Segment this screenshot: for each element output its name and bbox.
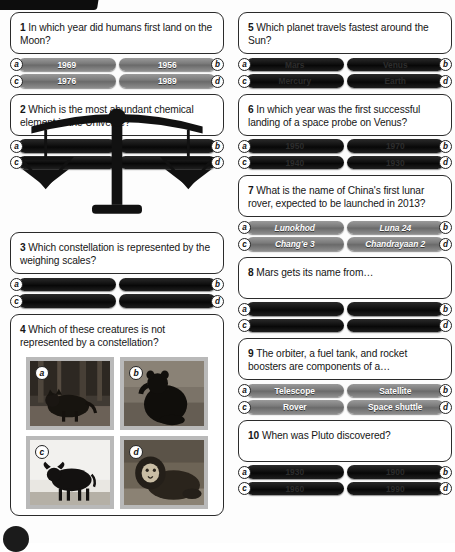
answers-7: a Lunokhod Luna 24 b c Chang'e 3 Chandra… <box>238 220 452 252</box>
answer-button-7a[interactable]: Lunokhod <box>246 221 344 235</box>
question-card-8: 8 Mars gets its name from… <box>238 257 452 299</box>
answer-button-6b[interactable]: 1970 <box>347 139 445 153</box>
scales-svg <box>10 105 224 230</box>
answer-button-8a[interactable] <box>246 302 344 316</box>
answer-button-1d[interactable]: 1989 <box>119 74 217 88</box>
answer-bullet-2c[interactable]: c <box>10 156 23 169</box>
answer-bullet-9c[interactable]: c <box>238 401 251 414</box>
answer-bullet-1c[interactable]: c <box>10 75 23 88</box>
answer-button-3a[interactable] <box>18 278 116 292</box>
question-number-4: 4 <box>20 324 26 335</box>
answer-bullet-8a[interactable]: a <box>238 303 251 316</box>
answer-button-3d[interactable] <box>119 294 217 308</box>
weighing-scales-illustration <box>10 174 224 230</box>
answer-button-10d[interactable]: 1990 <box>347 482 445 496</box>
question-number-5: 5 <box>248 22 254 33</box>
answer-row-10-cd: c 1960 1990 d <box>238 481 452 496</box>
answer-button-9c[interactable]: Rover <box>246 400 344 414</box>
answers-8: a b c d <box>238 302 452 334</box>
answer-button-6a[interactable]: 1950 <box>246 139 344 153</box>
question-text-5: 5 Which planet travels fastest around th… <box>248 21 442 48</box>
answer-bullet-5b[interactable]: b <box>439 58 452 71</box>
question-number-6: 6 <box>248 104 254 115</box>
answer-button-9b[interactable]: Satellite <box>347 384 445 398</box>
lion-photo[interactable]: d <box>120 436 208 509</box>
question-card-1: 1 In which year did humans first land on… <box>10 12 224 54</box>
answer-bullet-8c[interactable]: c <box>238 319 251 332</box>
answer-button-5b[interactable]: Venus <box>347 58 445 72</box>
answer-bullet-10b[interactable]: b <box>439 466 452 479</box>
question-number-9: 9 <box>248 348 254 359</box>
answer-button-1b[interactable]: 1956 <box>119 58 217 72</box>
answer-bullet-9d[interactable]: d <box>439 401 452 414</box>
answer-bullet-5a[interactable]: a <box>238 58 251 71</box>
answer-button-3c[interactable] <box>18 294 116 308</box>
answer-bullet-6a[interactable]: a <box>238 140 251 153</box>
wolf-photo[interactable]: a <box>26 357 114 430</box>
answer-button-3b[interactable] <box>119 278 217 292</box>
answer-bullet-2d[interactable]: d <box>211 156 224 169</box>
answer-bullet-6b[interactable]: b <box>439 140 452 153</box>
answer-bullet-6d[interactable]: d <box>439 156 452 169</box>
answer-bullet-3b[interactable]: b <box>211 278 224 291</box>
answer-button-5d[interactable]: Earth <box>347 74 445 88</box>
answer-button-5a[interactable]: Mars <box>246 58 344 72</box>
question-card-6: 6 In which year was the first successful… <box>238 94 452 136</box>
answer-button-7c[interactable]: Chang'e 3 <box>246 237 344 251</box>
answer-bullet-1a[interactable]: a <box>10 58 23 71</box>
answer-button-9d[interactable]: Space shuttle <box>347 400 445 414</box>
answer-row-6-cd: c 1940 1930 d <box>238 155 452 170</box>
answer-bullet-10a[interactable]: a <box>238 466 251 479</box>
answer-button-7b[interactable]: Luna 24 <box>347 221 445 235</box>
answers-10: a 1930 1900 b c 1960 1990 d <box>238 465 452 497</box>
answer-button-8c[interactable] <box>246 319 344 333</box>
bull-photo[interactable]: c <box>26 436 114 509</box>
answer-button-8d[interactable] <box>347 319 445 333</box>
answer-bullet-1b[interactable]: b <box>211 58 224 71</box>
answer-bullet-7a[interactable]: a <box>238 221 251 234</box>
black-corner-bar <box>0 0 99 10</box>
bear-photo[interactable]: b <box>120 357 208 430</box>
question-body-4: Which of these creatures is not represen… <box>20 324 165 348</box>
answer-button-10a[interactable]: 1930 <box>246 465 344 479</box>
answer-button-7d[interactable]: Chandrayaan 2 <box>347 237 445 251</box>
answer-bullet-5d[interactable]: d <box>439 75 452 88</box>
question-number-7: 7 <box>248 185 254 196</box>
answer-bullet-2a[interactable]: a <box>10 140 23 153</box>
answer-button-10b[interactable]: 1900 <box>347 465 445 479</box>
answer-bullet-9a[interactable]: a <box>238 384 251 397</box>
answer-bullet-1d[interactable]: d <box>211 75 224 88</box>
answer-bullet-3d[interactable]: d <box>211 295 224 308</box>
right-column: 5 Which planet travels fastest around th… <box>238 12 452 498</box>
answer-bullet-7d[interactable]: d <box>439 238 452 251</box>
answer-row-9-ab: a Telescope Satellite b <box>238 383 452 398</box>
answer-bullet-10c[interactable]: c <box>238 482 251 495</box>
answer-bullet-8b[interactable]: b <box>439 303 452 316</box>
answer-button-8b[interactable] <box>347 302 445 316</box>
answer-row-10-ab: a 1930 1900 b <box>238 465 452 480</box>
question-number-8: 8 <box>248 267 254 278</box>
answer-bullet-2b[interactable]: b <box>211 140 224 153</box>
answer-bullet-6c[interactable]: c <box>238 156 251 169</box>
question-text-8: 8 Mars gets its name from… <box>248 266 442 279</box>
answer-bullet-9b[interactable]: b <box>439 384 452 397</box>
answer-button-6c[interactable]: 1940 <box>246 156 344 170</box>
answer-row-3-ab: a b <box>10 277 224 292</box>
answer-bullet-5c[interactable]: c <box>238 75 251 88</box>
answer-row-5-ab: a Mars Venus b <box>238 57 452 72</box>
question-card-4: 4 Which of these creatures is not repres… <box>10 314 224 517</box>
answer-bullet-10d[interactable]: d <box>439 482 452 495</box>
answer-bullet-3a[interactable]: a <box>10 278 23 291</box>
answer-button-9a[interactable]: Telescope <box>246 384 344 398</box>
answer-row-7-ab: a Lunokhod Luna 24 b <box>238 220 452 235</box>
answer-bullet-7c[interactable]: c <box>238 238 251 251</box>
answer-bullet-3c[interactable]: c <box>10 295 23 308</box>
answer-button-5c[interactable]: Mercury <box>246 74 344 88</box>
answer-button-10c[interactable]: 1960 <box>246 482 344 496</box>
answer-bullet-7b[interactable]: b <box>439 221 452 234</box>
answer-bullet-8d[interactable]: d <box>439 319 452 332</box>
answer-button-1a[interactable]: 1969 <box>18 58 116 72</box>
answer-button-1c[interactable]: 1976 <box>18 74 116 88</box>
answer-button-6d[interactable]: 1930 <box>347 156 445 170</box>
